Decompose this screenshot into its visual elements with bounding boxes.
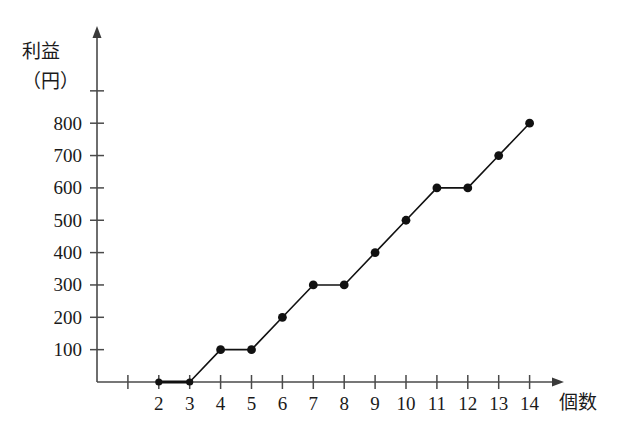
y-tick-label: 100 bbox=[54, 339, 83, 360]
y-tick-label: 800 bbox=[54, 113, 83, 134]
y-axis-label-line1: 利益 bbox=[22, 41, 60, 62]
x-tick-label: 6 bbox=[278, 393, 288, 414]
y-tick-label: 700 bbox=[54, 145, 83, 166]
y-tick-label: 500 bbox=[54, 210, 83, 231]
x-tick-label: 10 bbox=[397, 393, 416, 414]
x-tick-label: 9 bbox=[370, 393, 380, 414]
x-axis-arrow-icon bbox=[552, 378, 564, 387]
x-tick-label: 12 bbox=[458, 393, 477, 414]
series-line bbox=[159, 123, 530, 382]
x-tick-label: 3 bbox=[185, 393, 195, 414]
line-chart: 利益 （円） 個数 100200300400500600700800 23456… bbox=[0, 0, 631, 439]
data-point bbox=[155, 378, 162, 385]
x-tick-label: 13 bbox=[489, 393, 508, 414]
y-axis-label-line2: （円） bbox=[22, 71, 79, 92]
data-point bbox=[186, 378, 193, 385]
x-tick-label: 4 bbox=[216, 393, 226, 414]
data-point bbox=[247, 345, 256, 354]
data-series bbox=[155, 119, 534, 386]
data-point bbox=[433, 184, 442, 193]
x-tick-label: 14 bbox=[520, 393, 540, 414]
axis-lines bbox=[93, 26, 565, 387]
y-tick-label: 200 bbox=[54, 307, 83, 328]
x-tick-label: 8 bbox=[339, 393, 349, 414]
x-tick-label: 11 bbox=[428, 393, 446, 414]
x-tick-label: 7 bbox=[309, 393, 319, 414]
data-point bbox=[340, 281, 349, 290]
data-point bbox=[525, 119, 534, 128]
data-point bbox=[463, 184, 472, 193]
y-tick-label: 600 bbox=[54, 177, 83, 198]
y-tick-label: 300 bbox=[54, 274, 83, 295]
x-tick-label: 2 bbox=[154, 393, 164, 414]
data-point bbox=[278, 313, 287, 322]
data-point bbox=[494, 151, 503, 160]
data-point bbox=[371, 248, 380, 257]
data-point bbox=[216, 345, 225, 354]
data-point bbox=[402, 216, 411, 225]
chart-container: 利益 （円） 個数 100200300400500600700800 23456… bbox=[0, 0, 631, 439]
x-tick-label: 5 bbox=[247, 393, 257, 414]
data-point bbox=[309, 281, 318, 290]
y-tick-label: 400 bbox=[54, 242, 83, 263]
y-axis-arrow-icon bbox=[93, 26, 102, 38]
x-axis-label: 個数 bbox=[559, 392, 597, 413]
